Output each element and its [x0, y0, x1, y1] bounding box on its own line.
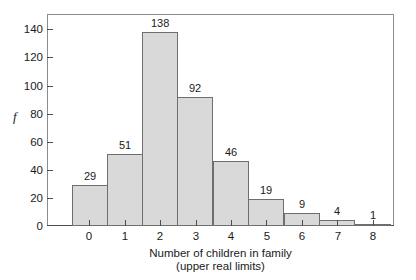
x-axis-caption: Number of children in family (upper real…	[47, 247, 394, 273]
bar-value-0: 29	[84, 171, 96, 182]
bar-value-6: 9	[299, 199, 305, 210]
y-tick-label-20: 20	[3, 193, 43, 205]
bar-2	[142, 32, 178, 226]
x-tick-mark-3	[196, 220, 197, 226]
x-tick-label-0: 0	[74, 231, 104, 243]
x-tick-label-8: 8	[358, 231, 388, 243]
x-tick-mark-0	[89, 220, 90, 226]
x-tick-label-3: 3	[181, 231, 211, 243]
bar-4	[213, 161, 249, 226]
y-tick-mark-40	[47, 170, 53, 171]
y-tick-mark-120	[47, 57, 53, 58]
x-tick-mark-4	[231, 220, 232, 226]
y-tick-mark-60	[47, 142, 53, 143]
y-tick-label-100: 100	[3, 81, 43, 93]
x-tick-label-2: 2	[145, 231, 175, 243]
bar-0	[72, 185, 108, 226]
x-tick-mark-5	[266, 220, 267, 226]
y-tick-mark-20	[47, 198, 53, 199]
x-tick-mark-1	[125, 220, 126, 226]
x-tick-mark-7	[337, 220, 338, 226]
x-tick-label-6: 6	[287, 231, 317, 243]
y-tick-label-140: 140	[3, 24, 43, 36]
x-axis-caption-line2: (upper real limits)	[47, 260, 394, 273]
x-tick-label-1: 1	[110, 231, 140, 243]
x-tick-mark-8	[373, 220, 374, 226]
y-tick-label-60: 60	[3, 137, 43, 149]
bar-value-3: 92	[189, 83, 201, 94]
x-tick-label-5: 5	[252, 231, 282, 243]
bar-1	[107, 154, 143, 226]
x-tick-label-4: 4	[216, 231, 246, 243]
x-axis-caption-line1: Number of children in family	[149, 247, 292, 259]
bar-value-1: 51	[119, 140, 131, 151]
bar-value-2: 138	[151, 18, 169, 29]
bar-3	[177, 97, 213, 226]
x-tick-mark-6	[302, 220, 303, 226]
y-tick-label-120: 120	[3, 52, 43, 64]
bar-value-7: 4	[334, 206, 340, 217]
y-tick-label-80: 80	[3, 109, 43, 121]
y-axis-ticks: 140 120 100 80 60 40 20 0	[0, 0, 43, 280]
y-tick-label-40: 40	[3, 165, 43, 177]
bar-value-4: 46	[225, 147, 237, 158]
x-tick-label-7: 7	[323, 231, 353, 243]
histogram-chart: f 140 120 100 80 60 40 20 0 29 51 138 92…	[0, 0, 416, 280]
bar-value-5: 19	[260, 185, 272, 196]
x-tick-mark-2	[160, 220, 161, 226]
y-tick-mark-140	[47, 29, 53, 30]
y-tick-mark-80	[47, 114, 53, 115]
y-tick-label-0: 0	[3, 221, 43, 233]
y-tick-mark-100	[47, 86, 53, 87]
